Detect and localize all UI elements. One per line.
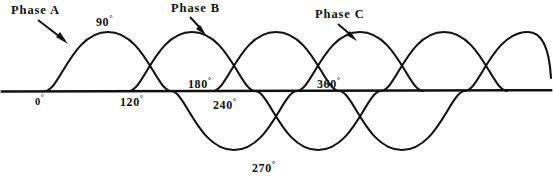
- degree-label-0: 0°: [35, 94, 44, 107]
- degree-label-240: 240°: [213, 97, 236, 111]
- degree-value-180: 180: [188, 77, 208, 91]
- degree-label-360: 360°: [317, 76, 340, 90]
- phase-a-arrow: [38, 20, 68, 44]
- three-phase-waveform-diagram: Phase A Phase B Phase C 90° 0° 120° 180°…: [0, 0, 553, 183]
- degree-value-360: 360: [317, 77, 337, 91]
- phase-c-label: Phase C: [315, 8, 365, 21]
- degree-symbol-90: °: [109, 13, 112, 23]
- waveform-canvas: [0, 0, 553, 183]
- degree-symbol-120: °: [140, 93, 143, 103]
- degree-symbol-270: °: [272, 159, 275, 169]
- degree-value-270: 270: [252, 161, 272, 175]
- degree-value-90: 90: [96, 15, 109, 29]
- degree-symbol-240: °: [233, 96, 236, 106]
- degree-symbol-0: °: [41, 93, 44, 102]
- degree-label-180: 180°: [188, 76, 211, 90]
- degree-symbol-360: °: [337, 75, 340, 85]
- degree-value-120: 120: [120, 95, 140, 109]
- degree-label-90: 90°: [96, 14, 113, 28]
- degree-symbol-180: °: [208, 75, 211, 85]
- degree-value-240: 240: [213, 98, 233, 112]
- phase-a-label: Phase A: [11, 4, 60, 17]
- degree-label-120: 120°: [120, 94, 143, 108]
- degree-label-270: 270°: [252, 160, 275, 174]
- phase-b-label: Phase B: [171, 2, 220, 15]
